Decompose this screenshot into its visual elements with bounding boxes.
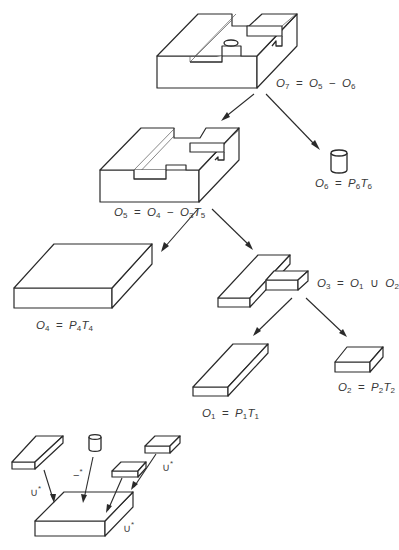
label-o5-lhs-sub: 5 — [123, 211, 128, 220]
label-o7-eq: = — [296, 77, 303, 89]
label-o1-lhs: O — [202, 407, 211, 419]
label-o5-b: O — [180, 206, 189, 218]
inset-difference-label: −* — [73, 467, 83, 481]
label-o2-a: P — [371, 381, 379, 393]
label-o3-op: ∪ — [370, 277, 379, 289]
label-o4-lhs-sub: 4 — [45, 324, 50, 333]
label-o3: O3 = O1 ∪ O2 — [317, 276, 399, 291]
label-o7-b: O — [342, 77, 351, 89]
label-o6-eq: = — [335, 177, 342, 189]
label-o7-op: − — [329, 77, 336, 89]
label-o4-a: P — [69, 319, 77, 331]
label-o6: O6 = P6T6 — [315, 177, 372, 191]
label-o5-a-sub: 4 — [156, 211, 161, 220]
inset-union-right-sup: * — [170, 459, 173, 468]
label-o7-b-sub: 6 — [351, 82, 356, 91]
label-o4: O4 = P4T4 — [36, 319, 93, 333]
label-o1-eq: = — [222, 407, 229, 419]
label-o4-lhs: O — [36, 319, 45, 331]
label-o2-lhs: O — [338, 381, 347, 393]
shape-o6-cylinder — [331, 150, 347, 173]
label-o3-lhs: O — [317, 277, 326, 289]
label-o2-lhs-sub: 2 — [347, 386, 352, 395]
inset-union-right-op: ∪ — [162, 461, 170, 473]
label-o2-eq: = — [358, 381, 365, 393]
label-o7-a: O — [309, 77, 318, 89]
label-o3-b-sub: 2 — [394, 282, 399, 291]
label-o5-a: O — [147, 206, 156, 218]
inset-difference-sup: * — [79, 467, 82, 476]
label-o2: O2 = P2T2 — [338, 381, 395, 395]
label-o4-eq: = — [56, 319, 63, 331]
shape-o3-union — [218, 255, 308, 307]
label-o7-lhs-sub: 7 — [285, 82, 290, 91]
shape-o4-slab — [14, 244, 152, 308]
label-o6-lhs: O — [315, 177, 324, 189]
label-o5-lhs: O — [114, 206, 123, 218]
label-o5-eq: = — [134, 206, 141, 218]
label-o7: O7 = O5 − O6 — [276, 77, 356, 91]
label-o5: O5 = O4 − O3T5 — [114, 206, 205, 220]
label-o1-b: T — [247, 407, 254, 419]
label-o4-b-sub: 4 — [89, 324, 94, 333]
shape-o2-short-block — [335, 347, 383, 372]
inset-union-left-sup: * — [38, 484, 41, 493]
label-o1-lhs-sub: 1 — [211, 412, 216, 421]
label-o6-lhs-sub: 6 — [324, 182, 329, 191]
label-o2-b: T — [383, 381, 390, 393]
label-o3-lhs-sub: 3 — [326, 282, 331, 291]
label-o2-b-sub: 2 — [391, 386, 396, 395]
inset-union-base-sup: * — [131, 520, 134, 529]
label-o1-b-sub: 1 — [255, 412, 260, 421]
inset-union-left-label: ∪* — [30, 484, 41, 499]
label-o6-a: P — [348, 177, 356, 189]
label-o1-a: P — [235, 407, 243, 419]
shape-o5-slotted-block — [100, 128, 239, 202]
inset-union-left-op: ∪ — [30, 486, 38, 498]
label-o6-b-sub: 6 — [368, 182, 373, 191]
label-o5-op: − — [167, 206, 174, 218]
inset-union-base-label: ∪* — [123, 520, 134, 535]
inset-union-base-op: ∪ — [123, 522, 131, 534]
inset-union-right-label: ∪* — [162, 459, 173, 474]
label-o7-a-sub: 5 — [318, 82, 323, 91]
label-o6-b: T — [360, 177, 367, 189]
label-o3-a: O — [350, 277, 359, 289]
label-o4-b: T — [81, 319, 88, 331]
label-o7-lhs: O — [276, 77, 285, 89]
label-o3-eq: = — [337, 277, 344, 289]
label-o5-c-sub: 5 — [201, 211, 206, 220]
label-o5-c: T — [194, 206, 201, 218]
label-o3-a-sub: 1 — [359, 282, 364, 291]
label-o1: O1 = P1T1 — [202, 407, 259, 421]
shape-o1-long-bar — [193, 344, 268, 396]
